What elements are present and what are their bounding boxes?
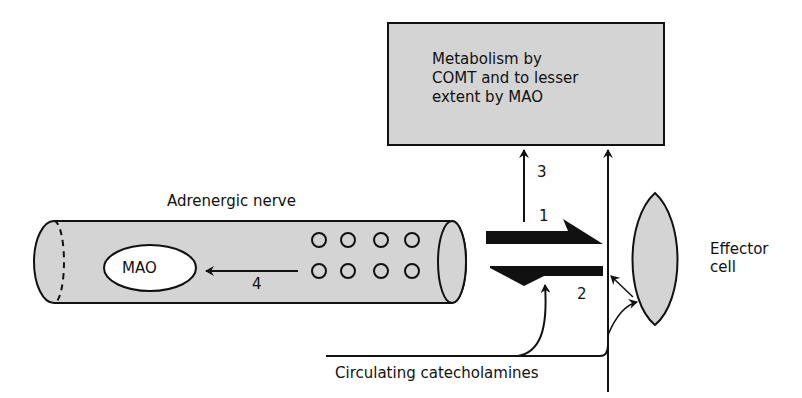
circulating-line: [326, 345, 608, 356]
metabolism-line-2: COMT and to lesser: [432, 69, 578, 88]
circulating-to-reuptake-arrow: [518, 285, 546, 356]
metabolism-text: Metabolism by COMT and to lesser extent …: [432, 50, 578, 107]
effector-label-line-1: Effector: [710, 240, 769, 258]
pathway-3-label: 3: [537, 163, 547, 181]
metabolism-line-1: Metabolism by: [432, 50, 578, 69]
nerve-label: Adrenergic nerve: [167, 192, 296, 210]
metabolism-line-3: extent by MAO: [432, 88, 578, 107]
adrenergic-nerve: [34, 221, 466, 303]
circulating-to-effector-arrow: [608, 302, 637, 335]
pathway-1-label: 1: [539, 207, 549, 225]
pathway-4-label: 4: [252, 275, 262, 293]
circulating-label: Circulating catecholamines: [335, 364, 539, 382]
effector-label-line-2: cell: [710, 258, 769, 276]
effector-release-arrow: [611, 276, 633, 297]
effector-cell: [633, 193, 678, 325]
mao-label: MAO: [122, 259, 157, 277]
pathway-2-label: 2: [577, 285, 587, 303]
pathway-2-arrow: [490, 266, 603, 286]
effector-label: Effector cell: [710, 240, 769, 276]
diagram-canvas: [0, 0, 802, 398]
